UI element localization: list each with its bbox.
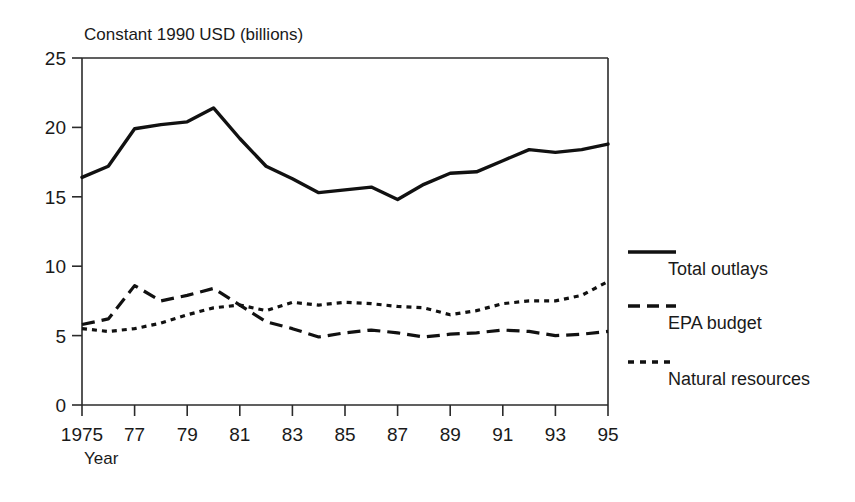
x-tick-label: 1975 [61,424,103,445]
x-tick-label: 93 [545,424,566,445]
y-tick-label: 5 [55,326,66,347]
y-tick-label: 25 [45,48,66,69]
series-line-dotted [82,281,608,331]
y-axis-ticks: 0510152025 [45,48,82,416]
x-tick-label: 85 [334,424,355,445]
x-tick-label: 77 [124,424,145,445]
x-tick-label: 95 [597,424,618,445]
axis-frame [82,58,608,405]
y-tick-label: 20 [45,117,66,138]
y-tick-label: 0 [55,395,66,416]
x-axis-ticks: 197577798183858789919395 [61,405,619,445]
chart-figure: Constant 1990 USD (billions) 0510152025 … [0,0,855,502]
x-tick-label: 87 [387,424,408,445]
x-tick-label: 91 [492,424,513,445]
chart-legend: Total outlaysEPA budgetNatural resources [628,252,810,389]
line-chart-svg: Constant 1990 USD (billions) 0510152025 … [0,0,855,502]
x-axis-title: Year [84,449,119,468]
y-tick-label: 15 [45,187,66,208]
y-tick-label: 10 [45,256,66,277]
legend-label: Total outlays [668,259,768,279]
legend-label: Natural resources [668,369,810,389]
legend-label: EPA budget [668,313,762,333]
x-tick-label: 81 [229,424,250,445]
series-line-dashed [82,286,608,337]
data-series-group [82,108,608,337]
y-axis-title: Constant 1990 USD (billions) [84,25,303,44]
x-tick-label: 79 [177,424,198,445]
x-tick-label: 83 [282,424,303,445]
series-line-solid [82,108,608,200]
x-tick-label: 89 [440,424,461,445]
